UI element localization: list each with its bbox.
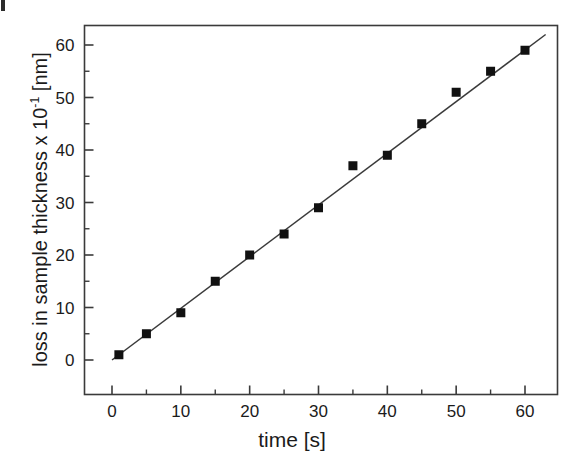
data-point-marker	[417, 119, 426, 128]
data-point-marker	[176, 308, 185, 317]
x-tick-label: 50	[447, 403, 466, 420]
x-tick-label: 0	[107, 403, 116, 420]
data-point-marker	[348, 161, 357, 170]
x-tick-label: 40	[378, 403, 397, 420]
y-axis-title-unit: [nm]	[29, 52, 51, 96]
data-point-marker	[314, 203, 323, 212]
y-axis-title-exponent: -1	[28, 97, 42, 108]
x-tick-label: 30	[309, 403, 328, 420]
data-point-marker	[211, 277, 220, 286]
data-point-marker	[383, 151, 392, 160]
data-point-marker	[114, 350, 123, 359]
data-point-marker	[521, 46, 530, 55]
x-tick-label: 20	[240, 403, 259, 420]
data-point-marker	[452, 88, 461, 97]
x-tick-label: 60	[516, 403, 535, 420]
data-point-marker	[280, 230, 289, 239]
x-axis-major-ticks	[112, 386, 525, 395]
y-axis-title: loss in sample thickness x 10-1 [nm]	[29, 20, 52, 400]
plot-area	[0, 0, 584, 470]
chart-figure: 01020304050600102030405060 time [s] loss…	[0, 0, 584, 470]
data-point-marker	[486, 67, 495, 76]
x-tick-label: 10	[171, 403, 190, 420]
y-axis-major-ticks	[85, 45, 94, 360]
x-axis-title: time [s]	[0, 428, 584, 452]
y-axis-title-text: loss in sample thickness x 10	[29, 108, 51, 367]
data-point-marker	[245, 251, 254, 260]
data-point-marker	[142, 329, 151, 338]
